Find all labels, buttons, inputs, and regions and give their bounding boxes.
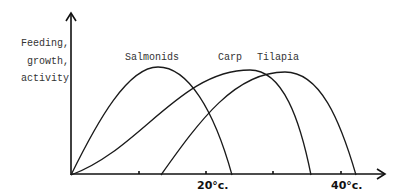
y-axis-label-line-2: growth,: [27, 56, 69, 67]
y-axis-label-line-3: activity: [21, 73, 69, 84]
label-salmonids: Salmonids: [125, 52, 179, 63]
curve-tilapia: [161, 72, 356, 175]
tick-label-40: 40°c.: [331, 179, 363, 192]
tick-label-20: 20°c.: [197, 179, 229, 192]
y-axis-label-line-1: Feeding,: [21, 38, 69, 49]
label-carp: Carp: [218, 52, 242, 63]
temperature-response-chart: Feeding, growth, activity 20°c. 40°c. Sa…: [0, 0, 406, 196]
label-tilapia: Tilapia: [257, 52, 299, 63]
